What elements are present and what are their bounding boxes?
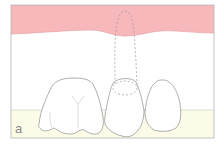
dental-diagram (0, 0, 224, 146)
panel-label: a (15, 122, 22, 135)
